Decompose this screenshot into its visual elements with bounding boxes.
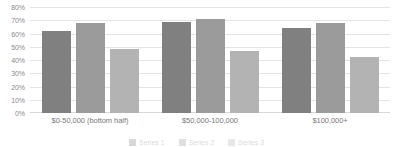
bar-series-1[interactable]	[42, 31, 71, 113]
y-axis-tick: 70%	[11, 17, 25, 24]
bar-chart: 80% 70% 60% 50% 40% 30% 20% 10% 0%	[0, 0, 393, 147]
bar-series-3[interactable]	[350, 57, 379, 113]
bar-series-3[interactable]	[110, 49, 139, 113]
y-axis-tick: 20%	[11, 83, 25, 90]
y-axis: 80% 70% 60% 50% 40% 30% 20% 10% 0%	[0, 0, 28, 147]
bar-series-3[interactable]	[230, 51, 259, 113]
y-axis-tick: 50%	[11, 43, 25, 50]
legend: Series 1 Series 2 Series 3	[0, 139, 393, 147]
bar-series-1[interactable]	[282, 28, 311, 113]
bar-series-2[interactable]	[316, 23, 345, 113]
y-axis-tick: 80%	[11, 4, 25, 11]
legend-swatch-icon	[129, 139, 136, 146]
bar-series-2[interactable]	[76, 23, 105, 113]
y-axis-tick: 10%	[11, 96, 25, 103]
bar-groups	[30, 7, 390, 113]
y-axis-tick: 30%	[11, 70, 25, 77]
legend-swatch-icon	[179, 139, 186, 146]
y-axis-tick: 40%	[11, 57, 25, 64]
x-axis: $0-50,000 (bottom half) $50,000-100,000 …	[30, 116, 390, 130]
legend-item-label: Series 3	[238, 139, 264, 146]
bar-group	[30, 7, 150, 113]
x-axis-tick: $0-50,000 (bottom half)	[30, 116, 150, 130]
x-axis-tick: $50,000-100,000	[150, 116, 270, 130]
bar-series-2[interactable]	[196, 19, 225, 113]
legend-item[interactable]: Series 3	[228, 139, 264, 146]
legend-item[interactable]: Series 2	[179, 139, 215, 146]
legend-item[interactable]: Series 1	[129, 139, 165, 146]
plot-area	[30, 7, 390, 113]
x-axis-tick: $100,000+	[270, 116, 390, 130]
legend-item-label: Series 2	[189, 139, 215, 146]
y-axis-tick: 0%	[15, 110, 25, 117]
legend-item-label: Series 1	[139, 139, 165, 146]
bar-group	[270, 7, 390, 113]
bar-series-1[interactable]	[162, 22, 191, 113]
legend-swatch-icon	[228, 139, 235, 146]
y-axis-tick: 60%	[11, 30, 25, 37]
bar-group	[150, 7, 270, 113]
